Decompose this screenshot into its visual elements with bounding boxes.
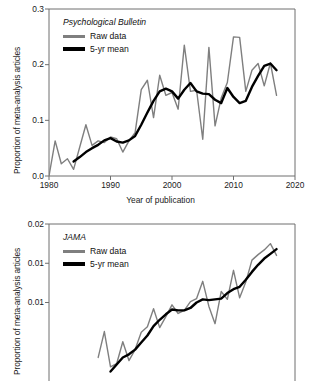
plot-area-psychological-bulletin xyxy=(0,0,321,200)
legend-swatch-raw-line xyxy=(63,35,85,38)
chart-panel-jama: Proportion of meta-analysis articles 0.0… xyxy=(0,215,321,381)
legend-entry-raw-data: Raw data xyxy=(63,245,129,257)
figure-two-panel-line-charts: Proportion of meta-analysis articles 0.3… xyxy=(0,0,321,381)
legend-label: 5-yr mean xyxy=(90,44,129,54)
legend-psychological-bulletin: Psychological Bulletin Raw data 5-yr mea… xyxy=(63,17,146,56)
legend-swatch-mean-line xyxy=(63,262,85,266)
legend-title: JAMA xyxy=(63,232,129,242)
plot-area-jama xyxy=(0,215,321,381)
legend-label: Raw data xyxy=(90,246,126,256)
legend-label: Raw data xyxy=(90,31,126,41)
legend-title: Psychological Bulletin xyxy=(63,17,146,27)
legend-entry-5yr-mean: 5-yr mean xyxy=(63,258,129,270)
legend-entry-raw-data: Raw data xyxy=(63,30,146,42)
legend-swatch-mean-line xyxy=(63,47,85,51)
legend-entry-5yr-mean: 5-yr mean xyxy=(63,43,146,55)
legend-jama: JAMA Raw data 5-yr mean xyxy=(63,232,129,271)
legend-label: 5-yr mean xyxy=(90,259,129,269)
chart-panel-psychological-bulletin: Proportion of meta-analysis articles 0.3… xyxy=(0,0,321,200)
legend-swatch-raw-line xyxy=(63,250,85,253)
